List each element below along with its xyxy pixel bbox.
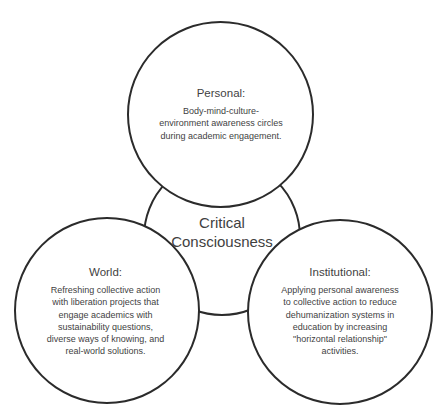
institutional-text: Institutional: Applying personal awarene… (265, 265, 415, 358)
world-title: World: (33, 265, 178, 279)
institutional-line: "horizontal relationship" (265, 333, 415, 345)
institutional-line: education by increasing (265, 321, 415, 333)
world-description: Refreshing collective action with libera… (33, 284, 178, 358)
center-title-line2: Consciousness (160, 232, 284, 251)
personal-line: environment awareness circles (145, 117, 297, 129)
critical-consciousness-label: Critical Consciousness (160, 213, 284, 251)
world-line: real-world solutions. (33, 345, 178, 357)
institutional-line: Applying personal awareness (265, 284, 415, 296)
world-line: with liberation projects that (33, 296, 178, 308)
world-line: sustainability questions, (33, 321, 178, 333)
personal-title: Personal: (145, 86, 297, 100)
institutional-title: Institutional: (265, 265, 415, 279)
world-line: engage academics with (33, 309, 178, 321)
world-line: diverse ways of knowing, and (33, 333, 178, 345)
personal-line: Body-mind-culture- (145, 105, 297, 117)
personal-text: Personal: Body-mind-culture- environment… (145, 86, 297, 142)
personal-description: Body-mind-culture- environment awareness… (145, 105, 297, 142)
institutional-description: Applying personal awareness to collectiv… (265, 284, 415, 358)
institutional-line: activities. (265, 345, 415, 357)
personal-line: during academic engagement. (145, 130, 297, 142)
institutional-line: dehumanization systems in (265, 309, 415, 321)
world-line: Refreshing collective action (33, 284, 178, 296)
center-title-line1: Critical (160, 213, 284, 232)
world-text: World: Refreshing collective action with… (33, 265, 178, 358)
institutional-line: to collective action to reduce (265, 296, 415, 308)
